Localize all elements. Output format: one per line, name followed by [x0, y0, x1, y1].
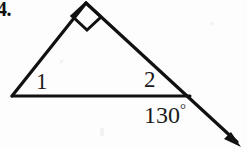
angle-label-1: 1: [36, 70, 48, 93]
problem-number-label: 4.: [0, 0, 11, 19]
figure-canvas: 4. 1 2 130°: [0, 0, 247, 149]
exterior-angle-value: 130: [144, 102, 180, 128]
exterior-angle-label: 130°: [144, 103, 186, 127]
angle-label-2: 2: [144, 68, 156, 91]
degree-symbol-icon: °: [180, 101, 186, 117]
